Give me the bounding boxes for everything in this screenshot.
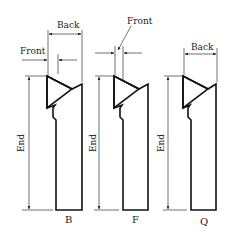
tool-f-outline [114, 76, 148, 210]
tool-q-end-label: End [156, 134, 166, 152]
tool-f-caption: F [132, 214, 139, 225]
tool-b-insert-triangle [47, 76, 72, 108]
tool-b-end-label: End [16, 134, 26, 152]
tool-f-end-label: End [88, 134, 98, 152]
tool-b-caption: B [65, 214, 72, 225]
tool-q-insert-triangle [183, 76, 208, 108]
tool-b-outline [47, 76, 82, 210]
tool-b: Back Front End B [16, 20, 82, 225]
tool-q-back-label: Back [191, 42, 214, 52]
tool-q-caption: Q [200, 216, 208, 227]
tool-f-front-label: Front [127, 16, 153, 26]
tool-f: Front End F [88, 16, 153, 225]
tool-q: Back End Q [156, 42, 217, 227]
tool-f-front-leader [118, 26, 131, 50]
tool-profiles-diagram: Back Front End B Front End F [0, 0, 231, 233]
tool-f-insert-triangle [114, 76, 139, 108]
tool-b-front-label: Front [20, 46, 46, 56]
tool-b-back-label: Back [57, 20, 80, 30]
